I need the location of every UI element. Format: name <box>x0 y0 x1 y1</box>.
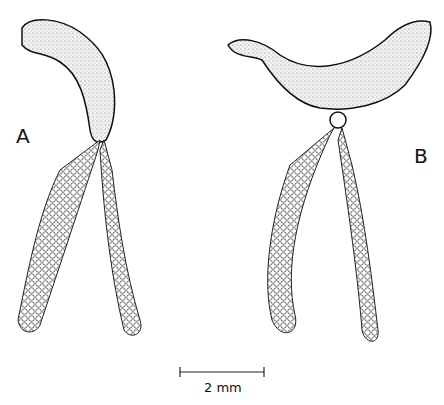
pollinarium-b <box>228 21 431 341</box>
illustration <box>0 0 444 405</box>
label-a: A <box>16 124 30 148</box>
label-b: B <box>414 144 428 168</box>
scale-bar <box>180 367 264 377</box>
scale-bar-label: 2 mm <box>204 380 242 395</box>
pollinarium-a <box>18 20 141 335</box>
figure: A B 2 mm <box>0 0 444 405</box>
